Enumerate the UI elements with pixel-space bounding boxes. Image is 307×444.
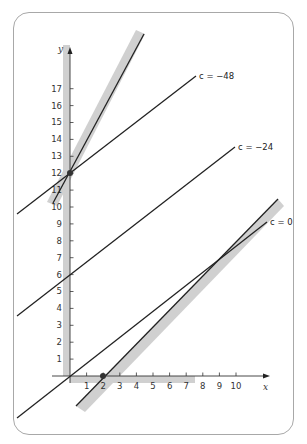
- level-label-c-0: c = 0: [270, 217, 293, 227]
- y-axis-label: y: [57, 44, 64, 54]
- x-tick-label: 1: [84, 381, 89, 391]
- y-tick-label: 2: [57, 337, 62, 347]
- x-tick-label: 9: [217, 381, 222, 391]
- y-ticks: [70, 89, 74, 359]
- diagonal-constraint-line: [76, 199, 278, 406]
- level-line-c-0: [17, 222, 267, 418]
- x-tick-label: 7: [183, 381, 188, 391]
- y-tick-label: 14: [51, 134, 62, 144]
- x-axis-arrow-icon: [263, 374, 270, 379]
- x-tick-label: 4: [134, 381, 139, 391]
- y-tick-labels: 1 2 3 4 5 6 7 8 9 10 11 12 13 14 15 16 1…: [51, 84, 62, 364]
- x-axis-label: x: [263, 382, 268, 392]
- y-tick-label: 10: [51, 202, 62, 212]
- y-tick-label: 8: [57, 236, 62, 246]
- y-tick-label: 7: [57, 253, 62, 263]
- level-line-c-minus-24: [17, 147, 235, 316]
- y-tick-label: 12: [51, 168, 62, 178]
- x-tick-label: 8: [200, 381, 205, 391]
- x-tick-label: 5: [150, 381, 155, 391]
- y-tick-label: 6: [57, 270, 62, 280]
- x-tick-label: 6: [167, 381, 172, 391]
- x-tick-label: 10: [231, 381, 242, 391]
- y-tick-label: 3: [57, 320, 62, 330]
- y-tick-label: 17: [51, 84, 62, 94]
- vertex-point-2-0: [100, 373, 106, 379]
- constraint-lines: [53, 34, 278, 406]
- feasible-region-diagram: 1 2 3 4 5 6 7 8 9 10 x 1 2 3 4 5 6: [0, 0, 307, 444]
- x-tick-label: 3: [117, 381, 122, 391]
- y-tick-label: 1: [57, 354, 62, 364]
- level-label-c-minus-24: c = −24: [238, 142, 273, 152]
- level-label-c-minus-48: c = −48: [199, 71, 234, 81]
- y-tick-label: 9: [57, 219, 62, 229]
- y-tick-label: 15: [51, 117, 62, 127]
- y-axis-band: [63, 45, 70, 376]
- y-tick-label: 4: [57, 303, 62, 313]
- y-tick-label: 16: [51, 101, 62, 111]
- constraint-bands: [47, 30, 284, 412]
- vertex-point-0-12: [67, 170, 73, 176]
- y-tick-label: 13: [51, 151, 62, 161]
- y-tick-label: 5: [57, 286, 62, 296]
- x-tick-label: 2: [100, 381, 105, 391]
